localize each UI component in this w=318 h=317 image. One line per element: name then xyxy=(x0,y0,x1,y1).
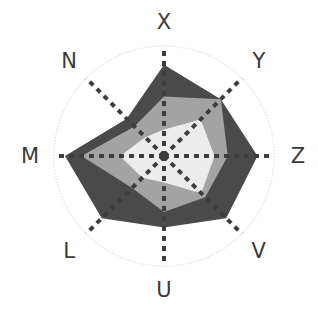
axis-label-m: M xyxy=(21,144,39,168)
center-dot xyxy=(160,152,168,160)
axis-label-x: X xyxy=(157,10,171,34)
axis-label-v: V xyxy=(252,239,267,263)
axis-label-z: Z xyxy=(291,144,305,168)
axis-label-l: L xyxy=(63,239,75,263)
axis-label-u: U xyxy=(156,278,171,302)
radar-chart: XYZVULMN xyxy=(0,0,318,317)
axis-label-n: N xyxy=(61,49,77,73)
axis-label-y: Y xyxy=(251,49,265,73)
